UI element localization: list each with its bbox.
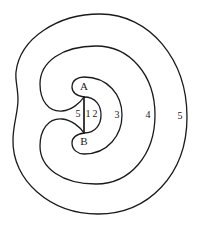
region-label-middle-ring: 4 <box>146 109 151 120</box>
point-b-label: B <box>80 135 87 147</box>
diagram: A B 5 1 2 3 4 5 <box>0 0 198 229</box>
region-label-inner-half-disk: 2 <box>93 108 98 119</box>
region-label-right-of-segment: 1 <box>86 108 91 119</box>
region-label-inner-ring: 3 <box>115 109 120 120</box>
point-a-label: A <box>80 80 88 92</box>
region-label-outer-ring: 5 <box>178 110 183 121</box>
region-label-left-of-segment: 5 <box>76 108 81 119</box>
middle-curve <box>40 46 155 184</box>
